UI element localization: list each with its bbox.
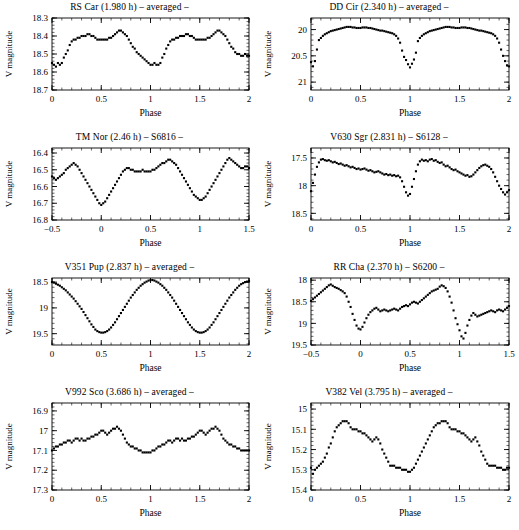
- data-point: [375, 29, 377, 31]
- data-point: [449, 296, 451, 298]
- data-point: [185, 33, 187, 35]
- data-point: [240, 167, 242, 169]
- data-point: [179, 309, 181, 311]
- data-point: [75, 438, 77, 440]
- data-point: [346, 164, 348, 166]
- y-axis-label: V magnitude: [4, 31, 14, 78]
- data-point: [498, 467, 500, 469]
- data-point: [167, 159, 169, 161]
- data-point: [59, 285, 61, 287]
- data-point: [403, 305, 405, 307]
- y-axis-label: V magnitude: [263, 288, 273, 335]
- data-point: [330, 283, 332, 285]
- data-point: [344, 420, 346, 422]
- data-point: [431, 290, 433, 292]
- data-point: [63, 57, 65, 59]
- data-point: [226, 159, 228, 161]
- data-point: [340, 289, 342, 291]
- data-point: [244, 449, 246, 451]
- data-point: [504, 193, 506, 195]
- data-point: [193, 328, 195, 330]
- data-point: [112, 35, 114, 37]
- data-point: [169, 440, 171, 442]
- data-point: [336, 29, 338, 31]
- data-point: [387, 461, 389, 463]
- data-point: [104, 432, 106, 434]
- x-tick-label: 0: [309, 494, 314, 504]
- data-point: [411, 302, 413, 304]
- data-point: [212, 428, 214, 430]
- x-tick-label: 2: [247, 94, 252, 104]
- data-point: [63, 288, 65, 290]
- data-point: [236, 447, 238, 449]
- data-point: [226, 300, 228, 302]
- data-point: [385, 31, 387, 33]
- data-point: [365, 169, 367, 171]
- data-point: [96, 199, 98, 201]
- data-point: [110, 430, 112, 432]
- x-tick-label: 0.5: [96, 349, 108, 359]
- data-point: [379, 442, 381, 444]
- data-point: [242, 167, 244, 169]
- data-point: [90, 35, 92, 37]
- data-point: [81, 438, 83, 440]
- data-point: [472, 174, 474, 176]
- data-point: [218, 30, 220, 32]
- x-tick-label: 1: [148, 94, 153, 104]
- data-series: [51, 279, 250, 334]
- data-point: [140, 170, 142, 172]
- y-tick-label: 18.5: [291, 209, 307, 219]
- data-point: [355, 324, 357, 326]
- data-point: [185, 440, 187, 442]
- data-point: [474, 436, 476, 438]
- data-point: [222, 165, 224, 167]
- data-point: [106, 330, 108, 332]
- data-point: [94, 37, 96, 39]
- data-point: [433, 29, 435, 31]
- data-point: [149, 451, 151, 453]
- data-point: [480, 165, 482, 167]
- data-point: [350, 166, 352, 168]
- data-point: [61, 174, 63, 176]
- data-point: [144, 58, 146, 60]
- data-point: [454, 317, 456, 319]
- data-point: [193, 194, 195, 196]
- data-point: [67, 49, 69, 51]
- data-point: [140, 449, 142, 451]
- x-tick-label: 0: [99, 224, 104, 234]
- plot-panel-v382-vel: V382 Vel (3.795 h) – averaged –00.511.52…: [259, 385, 519, 530]
- data-point: [383, 30, 385, 32]
- data-point: [69, 440, 71, 442]
- data-point: [153, 280, 155, 282]
- data-point: [496, 37, 498, 39]
- data-point: [476, 440, 478, 442]
- data-point: [82, 175, 84, 177]
- data-point: [500, 188, 502, 190]
- data-point: [454, 428, 456, 430]
- data-point: [330, 442, 332, 444]
- data-point: [435, 289, 437, 291]
- data-point: [142, 283, 144, 285]
- data-point: [322, 158, 324, 160]
- data-point: [136, 170, 138, 172]
- data-point: [161, 162, 163, 164]
- data-point: [379, 171, 381, 173]
- data-point: [151, 169, 153, 171]
- x-axis-label: Phase: [399, 108, 421, 118]
- data-point: [214, 31, 216, 33]
- data-point: [488, 310, 490, 312]
- data-point: [504, 60, 506, 62]
- data-point: [232, 291, 234, 293]
- data-point: [234, 51, 236, 53]
- data-point: [437, 288, 439, 290]
- data-point: [236, 287, 238, 289]
- data-point: [342, 420, 344, 422]
- data-point: [344, 292, 346, 294]
- x-tick-label: 0.5: [355, 494, 367, 504]
- data-point: [82, 311, 84, 313]
- data-point: [352, 313, 354, 315]
- data-point: [214, 426, 216, 428]
- data-point: [218, 172, 220, 174]
- data-point: [226, 39, 228, 41]
- data-point: [205, 434, 207, 436]
